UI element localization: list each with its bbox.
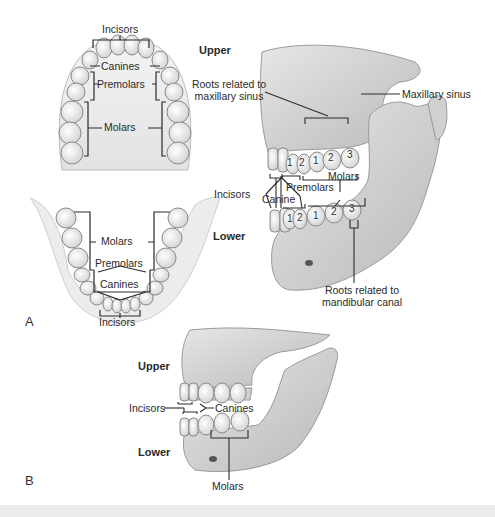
- lower-arch-incisors-label: Incisors: [99, 316, 135, 328]
- lateral-canine-label: Canine: [262, 193, 295, 205]
- lateral-molars-label: Molars: [328, 170, 360, 182]
- lateral-lower-label: Lower: [213, 230, 245, 242]
- panel-b-lower-label: Lower: [138, 446, 170, 458]
- panel-b-canines-label: Canines: [215, 402, 254, 414]
- roots-maxillary-line-1: Roots related to: [184, 78, 274, 90]
- lower-tooth-number: 2: [297, 212, 303, 223]
- roots-mandibular-canal-label: Roots related to mandibular canal: [312, 284, 412, 308]
- panel-b-molars-label: Molars: [212, 480, 244, 492]
- lower-arch-molars-label: Molars: [101, 235, 133, 247]
- panel-a-label: A: [25, 316, 34, 328]
- lateral-upper-label: Upper: [199, 44, 231, 56]
- upper-arch-illustration: [59, 35, 191, 170]
- lower-tooth-number: 1: [313, 210, 319, 221]
- lower-arch-premolars-label: Premolars: [95, 257, 143, 269]
- upper-tooth-number: 3: [347, 149, 353, 160]
- lower-tooth-number: 1: [287, 213, 293, 224]
- panel-b-label: B: [25, 475, 34, 487]
- lower-tooth-number: 2: [331, 206, 337, 217]
- panel-b-upper-label: Upper: [138, 360, 170, 372]
- roots-maxillary-sinus-label: Roots related to maxillary sinus: [184, 78, 274, 102]
- upper-arch-incisors-label: Incisors: [102, 23, 138, 35]
- lower-arch-canines-label: Canines: [100, 278, 139, 290]
- roots-mandibular-line-2: mandibular canal: [312, 296, 412, 308]
- upper-tooth-number: 1: [287, 157, 293, 168]
- upper-arch-molars-label: Molars: [104, 121, 136, 133]
- lateral-incisors-label: Incisors: [214, 188, 250, 200]
- roots-maxillary-line-2: maxillary sinus: [184, 90, 274, 102]
- lateral-premolars-label: Premolars: [286, 181, 334, 193]
- upper-arch-premolars-label: Premolars: [97, 78, 145, 90]
- upper-arch-canines-label: Canines: [101, 60, 140, 72]
- upper-tooth-number: 1: [313, 155, 319, 166]
- maxillary-sinus-label: Maxillary sinus: [402, 88, 471, 100]
- panel-b-incisors-label: Incisors: [129, 402, 165, 414]
- lower-tooth-number: 3: [349, 203, 355, 214]
- footer-strip: [0, 505, 495, 517]
- roots-mandibular-line-1: Roots related to: [312, 284, 412, 296]
- dental-anatomy-figure: Incisors Canines Premolars Molars Molars…: [0, 0, 495, 517]
- upper-tooth-number: 2: [299, 157, 305, 168]
- upper-tooth-number: 2: [328, 152, 334, 163]
